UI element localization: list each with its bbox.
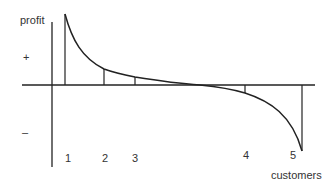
y-axis-label: profit [20, 15, 44, 26]
plus-sign: + [23, 52, 29, 63]
tick-label-5: 5 [290, 150, 296, 161]
tick-label-4: 4 [243, 150, 249, 161]
tick-label-1: 1 [65, 153, 71, 164]
x-axis-label: customers [271, 170, 322, 181]
tick-label-2: 2 [102, 153, 108, 164]
minus-sign: – [22, 127, 28, 138]
profit-curve-diagram [0, 0, 335, 187]
profit-curve [65, 14, 302, 151]
tick-label-3: 3 [132, 153, 138, 164]
